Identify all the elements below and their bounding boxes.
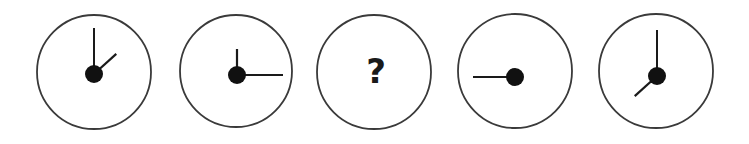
clock-5 — [593, 8, 719, 134]
clock-hub — [506, 68, 524, 86]
clock-4 — [452, 8, 578, 134]
question-mark-icon: ? — [366, 51, 386, 91]
clock-3: ? — [311, 9, 437, 135]
clock-hub — [228, 66, 246, 84]
clock-sequence-diagram: ? — [0, 0, 749, 144]
clock-1 — [31, 9, 157, 135]
clock-2 — [174, 9, 298, 133]
clock-hub — [648, 67, 666, 85]
clock-hub — [85, 65, 103, 83]
